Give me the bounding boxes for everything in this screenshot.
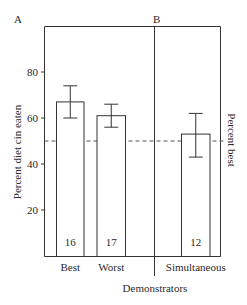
- y-tick-label: 40: [27, 158, 39, 170]
- y-axis-title: Percent diet cin eaten: [11, 104, 23, 199]
- bar-simultaneous: 12Simultaneous: [166, 113, 226, 273]
- right-axis-title: Percent best: [226, 113, 238, 166]
- x-axis-title: Demonstrators: [123, 282, 188, 294]
- panel-label-b: B: [153, 13, 160, 25]
- bar-chart: A B 20406080 16Best17Worst12Simultaneous…: [0, 0, 247, 305]
- y-tick-label: 20: [27, 204, 39, 216]
- y-tick-label: 60: [27, 112, 39, 124]
- sample-size-label: 16: [65, 236, 77, 248]
- bars: 16Best17Worst12Simultaneous: [57, 86, 226, 273]
- y-axis-ticks: 20406080: [27, 66, 45, 216]
- bar-worst: 17Worst: [97, 104, 126, 273]
- panel-label-a: A: [14, 13, 22, 25]
- bar-best: 16Best: [57, 86, 85, 273]
- category-label: Worst: [98, 261, 124, 273]
- sample-size-label: 17: [106, 236, 118, 248]
- y-tick-label: 80: [27, 66, 39, 78]
- sample-size-label: 12: [190, 236, 201, 248]
- category-label: Best: [60, 261, 80, 273]
- category-label: Simultaneous: [166, 261, 226, 273]
